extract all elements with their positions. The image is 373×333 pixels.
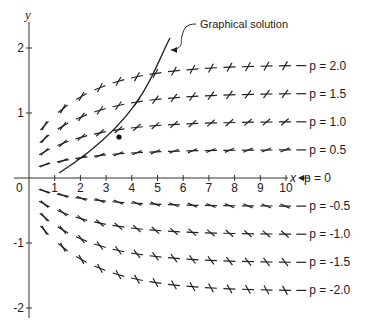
- x-tick-label: 6: [180, 181, 187, 195]
- x-tick-label: 5: [154, 181, 161, 195]
- x-tick-label: 4: [128, 181, 135, 195]
- isocline-label: p = -2.0: [309, 283, 350, 297]
- isocline-label: p = 0.5: [309, 143, 346, 157]
- isocline-label: p = -1.5: [309, 255, 350, 269]
- solution-point: [116, 134, 121, 139]
- x-tick-label: 7: [206, 181, 213, 195]
- isocline-label: p = -0.5: [309, 199, 350, 213]
- x-tick-label: 9: [257, 181, 264, 195]
- isocline-label: p = -1.0: [309, 227, 350, 241]
- isocline-label: p = 2.0: [309, 59, 346, 73]
- x-tick-label: 2: [77, 181, 84, 195]
- y-tick-label: -2: [13, 301, 24, 315]
- y-tick-label: -1: [13, 236, 24, 250]
- y-axis-label: y: [23, 7, 31, 22]
- x-tick-label: 10: [279, 181, 293, 195]
- isocline-label: p = 1.5: [309, 87, 346, 101]
- x-tick-label: 1: [51, 181, 58, 195]
- annotation-leader: [171, 24, 196, 50]
- x-tick-label: 8: [231, 181, 238, 195]
- annotation-text: Graphical solution: [200, 18, 288, 30]
- y-tick-label: 1: [17, 106, 24, 120]
- isocline-label: p = 1.0: [309, 115, 346, 129]
- origin-label: 0: [16, 181, 23, 195]
- diagram-canvas: y x 0 12345678910 21-1-2 p = 2.0p = 1.5p…: [0, 0, 373, 333]
- y-tick-label: 2: [17, 41, 24, 55]
- isocline-diagram: y x 0 12345678910 21-1-2 p = 2.0p = 1.5p…: [0, 0, 373, 333]
- annotation-arrowhead: [171, 47, 177, 53]
- x-tick-label: 3: [103, 181, 110, 195]
